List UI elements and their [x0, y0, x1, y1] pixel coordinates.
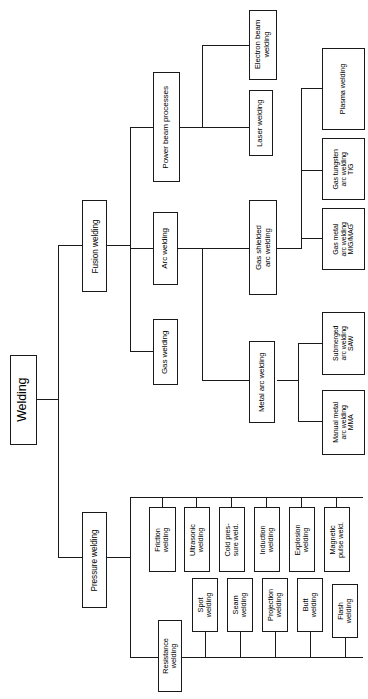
connector-drop-cold-pressure	[231, 497, 232, 507]
node-gas-metal-arc-welding-mig-mag-label: Gas metal arc welding MIG/MAG	[332, 222, 355, 256]
connector-drop-butt	[310, 632, 311, 657]
node-seam-welding-label: Seam welding	[232, 593, 248, 617]
node-power-beam-processes-label: Power beam processes	[162, 86, 171, 169]
connector-drop-induction	[266, 497, 267, 507]
connector-metal-arc-to-saw	[298, 343, 322, 344]
node-friction-welding[interactable]: Friction welding	[149, 507, 176, 572]
node-electron-beam-welding-label: Electron beam welding	[254, 20, 271, 70]
connector-gas-shielded-to-bus	[277, 248, 302, 249]
connector-arc-welding-to-bus	[178, 248, 203, 249]
connector-metal-arc-to-bus	[277, 380, 299, 381]
node-flash-welding-label: Flash welding	[337, 599, 353, 623]
node-induction-welding-label: Induction welding	[259, 525, 275, 554]
connector-welding-to-bus	[37, 399, 59, 400]
node-cold-pressure-weld-label: Cold pres- sure weld.	[224, 523, 240, 556]
node-explosion-welding-label: Explosion welding	[294, 524, 310, 555]
node-power-beam-processes[interactable]: Power beam processes	[153, 72, 180, 182]
node-welding-label: Welding	[17, 378, 31, 422]
node-laser-welding-label: Laser welding	[257, 99, 266, 146]
connector-fusion-to-bus	[107, 245, 131, 246]
connector-drop-friction	[162, 497, 163, 507]
connector-gas-shielded-to-mig-mag	[301, 238, 322, 239]
connector-power-beam-to-bus	[180, 127, 203, 128]
node-metal-arc-welding-label: Metal arc welding	[258, 352, 267, 412]
node-flash-welding[interactable]: Flash welding	[332, 584, 358, 638]
connector-pressure-bus	[130, 497, 131, 658]
node-manual-metal-arc-welding-mma-label: Manual metal arc welding MMA	[332, 402, 355, 443]
node-gas-tungsten-arc-welding-tig[interactable]: Gas tungsten arc welding TIG	[322, 138, 365, 200]
node-butt-welding[interactable]: Butt welding	[297, 578, 323, 632]
connector-arc-welding-bus	[202, 248, 203, 381]
node-gas-tungsten-arc-welding-tig-label: Gas tungsten arc welding TIG	[332, 149, 355, 189]
node-cold-pressure-weld[interactable]: Cold pres- sure weld.	[219, 507, 245, 572]
node-resistance-welding[interactable]: Resistance welding	[158, 620, 182, 692]
node-arc-welding-label: Arc welding	[161, 228, 170, 269]
node-submerged-arc-welding-saw[interactable]: Submerged arc welding SAW	[322, 312, 365, 375]
node-gas-shielded-arc-welding[interactable]: Gas shielded arc welding	[249, 200, 277, 295]
connector-drop-projection	[275, 632, 276, 657]
node-pressure-welding-label: Pressure welding	[90, 529, 99, 591]
connector-fusion-bus-to-arc-welding	[130, 248, 153, 249]
connector-power-beam-bus	[202, 45, 203, 127]
connector-fusion-bus	[130, 127, 131, 352]
node-magnetic-pulse-weld-label: Magnetic pulse weld.	[329, 522, 345, 558]
node-plasma-welding-label: Plasma welding	[340, 64, 348, 114]
node-butt-welding-label: Butt welding	[302, 593, 318, 617]
node-manual-metal-arc-welding-mma[interactable]: Manual metal arc welding MMA	[322, 390, 365, 455]
connector-drop-magnetic-pulse	[336, 497, 337, 507]
node-fusion-welding-label: Fusion welding	[90, 219, 99, 273]
node-projection-welding[interactable]: Projection welding	[262, 578, 288, 632]
connector-drop-ultrasonic	[196, 497, 197, 507]
connector-bus-to-fusion-welding	[58, 245, 82, 246]
welding-classification-diagram: Welding Fusion welding Pressure welding …	[0, 0, 368, 699]
node-resistance-welding-label: Resistance welding	[162, 638, 178, 674]
connector-gas-shielded-bus	[301, 88, 302, 248]
connector-power-beam-to-electron-beam	[202, 45, 249, 46]
node-explosion-welding[interactable]: Explosion welding	[289, 507, 315, 572]
connector-root-bus	[58, 245, 59, 558]
connector-bus-to-pressure-welding	[58, 557, 82, 558]
connector-drop-spot	[205, 632, 206, 657]
node-seam-welding[interactable]: Seam welding	[227, 578, 253, 632]
connector-gas-shielded-to-plasma	[301, 88, 322, 89]
connector-resistance-rail	[182, 657, 363, 658]
node-pressure-welding[interactable]: Pressure welding	[82, 512, 107, 608]
node-submerged-arc-welding-saw-label: Submerged arc welding SAW	[332, 326, 355, 361]
node-gas-welding[interactable]: Gas welding	[153, 319, 178, 385]
node-plasma-welding[interactable]: Plasma welding	[322, 48, 365, 130]
node-laser-welding[interactable]: Laser welding	[249, 90, 273, 156]
node-ultrasonic-welding[interactable]: Ultrasonic welding	[184, 507, 210, 572]
connector-metal-arc-to-mma	[298, 421, 322, 422]
connector-fusion-bus-to-power-beam	[130, 127, 153, 128]
connector-pressure-rail-top	[130, 497, 363, 498]
connector-pressure-to-bus	[107, 557, 131, 558]
node-friction-welding-label: Friction welding	[155, 527, 171, 551]
node-fusion-welding[interactable]: Fusion welding	[82, 200, 107, 292]
connector-pressure-to-resistance	[130, 657, 158, 658]
node-metal-arc-welding[interactable]: Metal arc welding	[249, 341, 275, 423]
node-welding[interactable]: Welding	[10, 355, 37, 445]
node-gas-welding-label: Gas welding	[161, 330, 170, 373]
connector-drop-flash	[345, 638, 346, 657]
connector-gas-shielded-to-tig	[301, 170, 322, 171]
connector-fusion-bus-to-gas-welding	[130, 351, 153, 352]
node-spot-welding[interactable]: Spot welding	[192, 578, 218, 632]
node-gas-metal-arc-welding-mig-mag[interactable]: Gas metal arc welding MIG/MAG	[322, 208, 365, 270]
node-projection-welding-label: Projection welding	[267, 589, 283, 621]
node-induction-welding[interactable]: Induction welding	[254, 507, 280, 572]
node-arc-welding[interactable]: Arc welding	[153, 212, 178, 285]
node-electron-beam-welding[interactable]: Electron beam welding	[249, 10, 277, 80]
connector-arc-to-gas-shielded	[202, 248, 249, 249]
connector-power-beam-to-laser	[202, 127, 249, 128]
connector-arc-to-metal-arc	[202, 380, 249, 381]
connector-drop-seam	[240, 632, 241, 657]
node-ultrasonic-welding-label: Ultrasonic welding	[189, 524, 205, 556]
node-gas-shielded-arc-welding-label: Gas shielded arc welding	[254, 225, 271, 270]
connector-drop-explosion	[301, 497, 302, 507]
connector-metal-arc-bus	[298, 343, 299, 422]
node-magnetic-pulse-weld[interactable]: Magnetic pulse weld.	[324, 507, 350, 572]
node-spot-welding-label: Spot welding	[197, 593, 213, 617]
